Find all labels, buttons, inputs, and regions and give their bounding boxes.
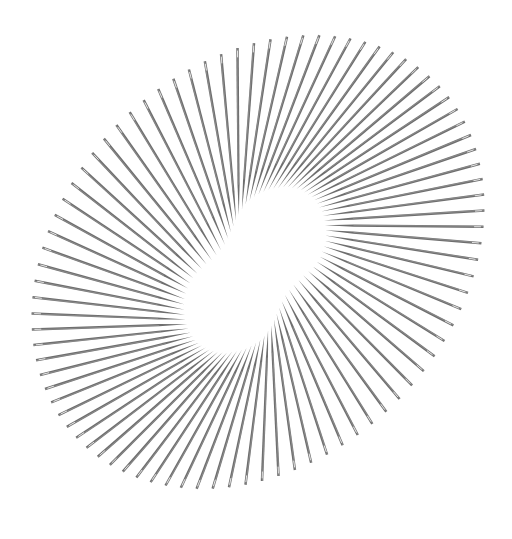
background — [0, 0, 512, 539]
needle-eye — [221, 57, 222, 63]
needle-arrangement — [0, 0, 512, 539]
needles-photo: Sewing needles arranged radially around … — [0, 0, 512, 539]
